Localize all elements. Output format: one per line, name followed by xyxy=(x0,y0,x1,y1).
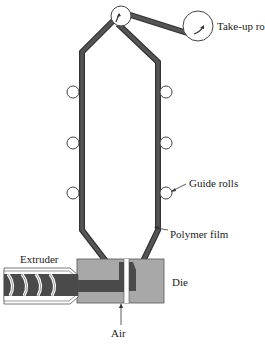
guide-rolls-label: Guide rolls xyxy=(189,177,238,189)
take-up-roll-label: Take-up roll xyxy=(217,20,265,32)
take-up-roll xyxy=(183,11,213,41)
die xyxy=(72,259,164,303)
extruder-label: Extruder xyxy=(20,253,59,265)
polymer-film-bubble xyxy=(82,12,203,282)
die-label: Die xyxy=(172,276,188,288)
blown-film-diagram: Take-up roll Guide rolls Polymer film Di… xyxy=(0,0,265,345)
nip-roll xyxy=(111,6,131,26)
polymer-film-label: Polymer film xyxy=(170,228,229,240)
extruder xyxy=(4,268,78,304)
air-label: Air xyxy=(111,327,126,339)
